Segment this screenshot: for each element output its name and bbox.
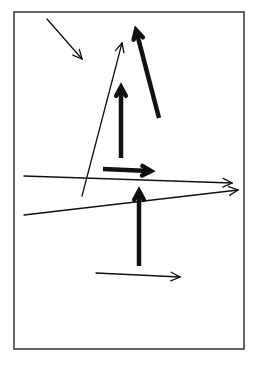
arrow-thick-up-upper bbox=[116, 87, 126, 158]
arrow-shaft bbox=[24, 176, 232, 183]
arrow-thin-up-right bbox=[82, 43, 124, 196]
arrow-thick-right-short bbox=[103, 166, 151, 176]
arrow-shaft bbox=[103, 169, 149, 171]
arrow-long-right-2 bbox=[24, 187, 238, 215]
arrows-group bbox=[24, 19, 238, 281]
diagram-frame bbox=[14, 12, 244, 349]
arrow-long-right-1 bbox=[24, 176, 232, 187]
arrow-diagram bbox=[0, 0, 260, 367]
arrow-thick-up-left bbox=[134, 30, 159, 118]
arrow-diag-down-right bbox=[47, 19, 82, 59]
arrow-shaft bbox=[47, 19, 82, 59]
arrow-shaft bbox=[137, 32, 159, 118]
arrow-shaft bbox=[24, 190, 238, 215]
arrow-thin-right-bottom bbox=[96, 272, 180, 281]
arrow-shaft bbox=[96, 273, 180, 277]
arrow-shaft bbox=[82, 43, 122, 196]
